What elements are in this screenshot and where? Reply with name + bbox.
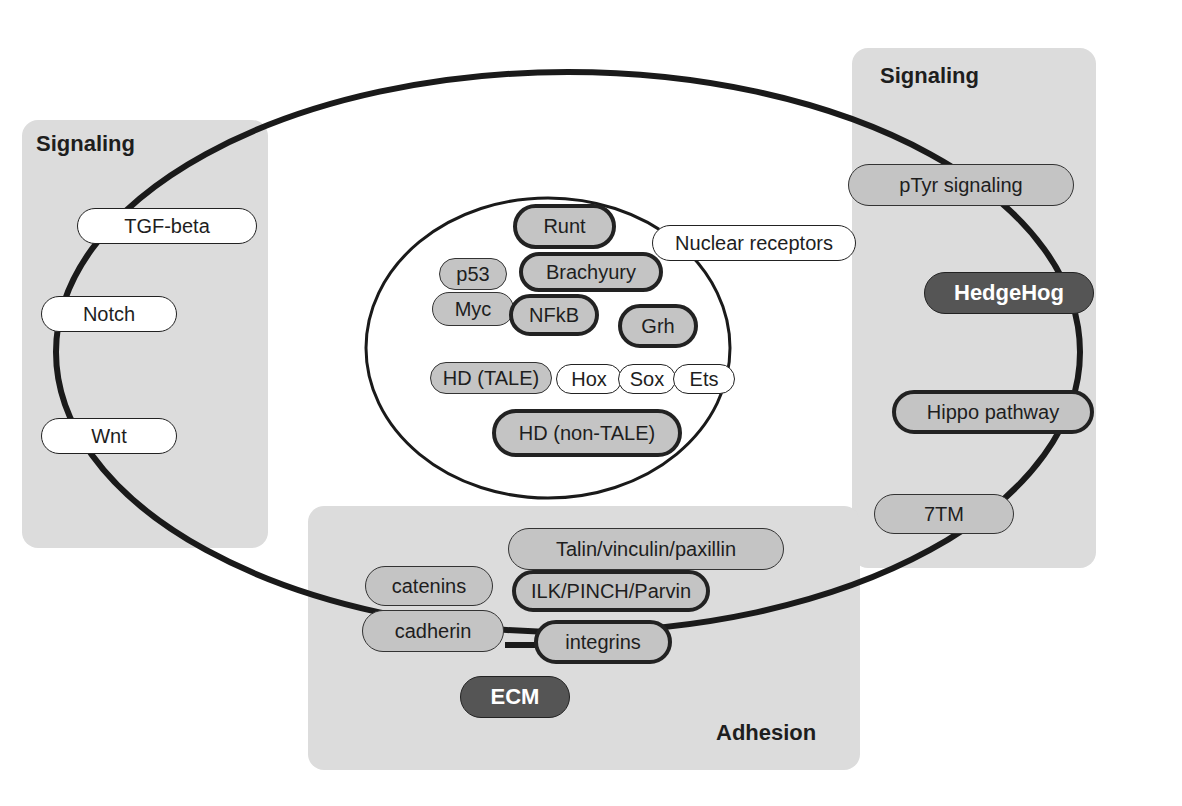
pill-catenins: catenins bbox=[365, 566, 493, 606]
pill-p53: p53 bbox=[439, 258, 507, 290]
pill-wnt: Wnt bbox=[41, 418, 177, 454]
pill-ets: Ets bbox=[673, 364, 735, 394]
pill-myc: Myc bbox=[432, 292, 514, 326]
pill-grh: Grh bbox=[618, 304, 698, 348]
pill-notch: Notch bbox=[41, 296, 177, 332]
right-signaling-title: Signaling bbox=[880, 63, 979, 89]
pill-talin-vinculin-paxillin: Talin/vinculin/paxillin bbox=[508, 528, 784, 570]
pill-tgf-beta: TGF-beta bbox=[77, 208, 257, 244]
pill-integrins: integrins bbox=[534, 620, 672, 664]
pill-hox: Hox bbox=[556, 364, 622, 394]
adhesion-title: Adhesion bbox=[716, 720, 816, 746]
pill-nuclear-receptors: Nuclear receptors bbox=[652, 225, 856, 261]
pill-runt: Runt bbox=[513, 204, 616, 249]
left-signaling-title: Signaling bbox=[36, 131, 135, 157]
pill-ilk-pinch-parvin: ILK/PINCH/Parvin bbox=[512, 570, 710, 612]
pill-hedgehog: HedgeHog bbox=[924, 272, 1094, 314]
pill-nfkb: NFkB bbox=[509, 294, 599, 336]
pill-sox: Sox bbox=[618, 364, 676, 394]
pill-hd-tale: HD (TALE) bbox=[430, 362, 552, 394]
pill-brachyury: Brachyury bbox=[519, 252, 663, 292]
pill-ecm: ECM bbox=[460, 676, 570, 718]
pill-cadherin: cadherin bbox=[362, 610, 504, 652]
pill-hippo-pathway: Hippo pathway bbox=[892, 390, 1094, 434]
pill-ptyr-signaling: pTyr signaling bbox=[848, 164, 1074, 206]
pill-hd-non-tale: HD (non-TALE) bbox=[492, 409, 682, 457]
pill-7tm: 7TM bbox=[874, 494, 1014, 534]
